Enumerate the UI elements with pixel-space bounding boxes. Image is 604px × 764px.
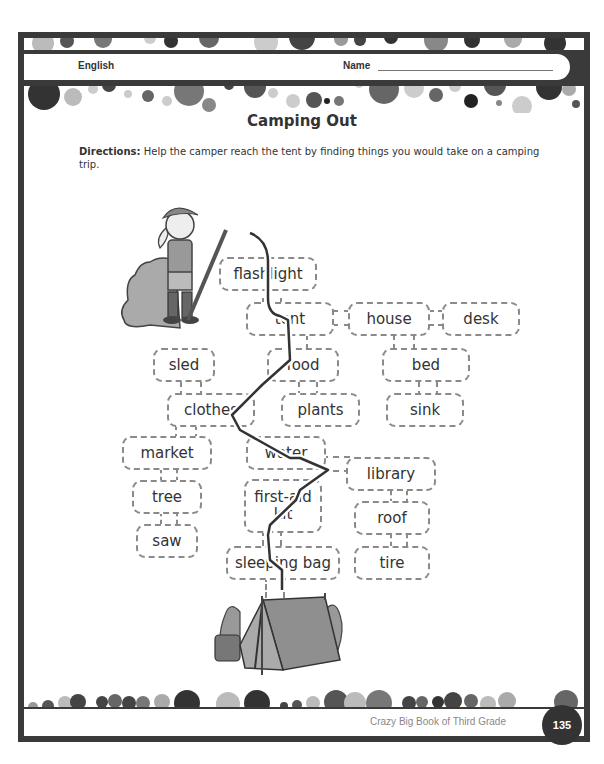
tent-icon (215, 593, 342, 675)
footer-divider (24, 707, 584, 709)
camper-girl-icon (122, 208, 226, 328)
maze-illustrations (0, 0, 604, 764)
solution-path-line (232, 233, 328, 590)
bottom-dots-decoration (24, 690, 584, 708)
book-title: Crazy Big Book of Third Grade (370, 716, 506, 727)
page-number-badge: 135 (542, 705, 582, 745)
